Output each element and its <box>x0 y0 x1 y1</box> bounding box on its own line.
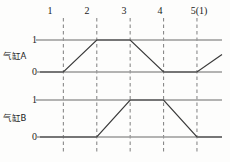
gridline-group <box>63 18 197 152</box>
displacement-step-diagram: 1 2 3 4 5(1) 1 0 气缸A 1 0 气缸B <box>0 0 230 162</box>
plot-canvas <box>0 0 230 162</box>
trace-group <box>40 40 222 137</box>
trace-cylinder-a <box>40 40 222 72</box>
trace-cylinder-b <box>40 100 222 137</box>
